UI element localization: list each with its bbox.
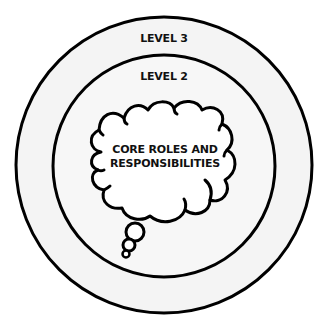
tail-bubble-small xyxy=(123,251,130,258)
tail-bubble-medium xyxy=(123,239,135,251)
level-2-label: LEVEL 2 xyxy=(114,70,214,83)
core-label-line-2: RESPONSIBILITIES xyxy=(95,157,235,171)
core-label: CORE ROLES AND RESPONSIBILITIES xyxy=(95,143,235,171)
core-label-line-1: CORE ROLES AND xyxy=(95,143,235,157)
level-3-label: LEVEL 3 xyxy=(114,32,214,45)
